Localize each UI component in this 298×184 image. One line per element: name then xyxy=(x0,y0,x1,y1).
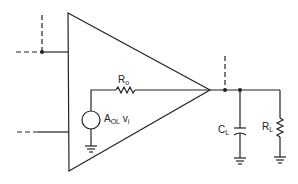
circuit-diagram: Ro AOL vi CL RL xyxy=(0,0,298,184)
rl-label: RL xyxy=(262,122,273,133)
ro-resistor xyxy=(116,87,135,93)
source-to-ro-wire xyxy=(91,90,116,111)
cl-label: CL xyxy=(218,125,229,136)
rl-ground-icon xyxy=(274,157,286,163)
output-node-dot xyxy=(223,88,227,92)
source-ground-icon xyxy=(85,146,97,152)
op-amp-triangle xyxy=(68,13,210,171)
ro-label: Ro xyxy=(118,75,129,86)
cl-ground-icon xyxy=(234,158,246,164)
rl-resistor xyxy=(277,118,283,137)
load-node-dot xyxy=(238,88,242,92)
gain-source-label: AOL vi xyxy=(104,114,129,125)
upper-input-node-dot xyxy=(40,50,44,54)
gain-source-circle xyxy=(82,111,100,129)
circuit-schematic xyxy=(0,0,298,184)
